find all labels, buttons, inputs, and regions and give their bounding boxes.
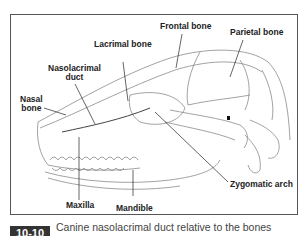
label-maxilla: Maxilla	[66, 201, 94, 210]
label-nasal-bone: Nasal bone	[20, 95, 43, 113]
label-zygomatic-arch: Zygomatic arch	[230, 180, 293, 189]
label-parietal-bone: Parietal bone	[230, 28, 283, 37]
label-nasal-line2: bone	[20, 104, 43, 113]
label-nasolacrimal-duct: Nasolacrimal duct	[48, 64, 101, 82]
figure-number-badge: 10-10	[10, 226, 50, 236]
label-frontal-bone: Frontal bone	[160, 22, 211, 31]
label-nasolacrimal-line2: duct	[48, 73, 101, 82]
label-lacrimal-bone: Lacrimal bone	[94, 40, 152, 49]
label-mandible: Mandible	[116, 204, 153, 213]
figure-caption: Canine nasolacrimal duct relative to the…	[56, 221, 271, 233]
